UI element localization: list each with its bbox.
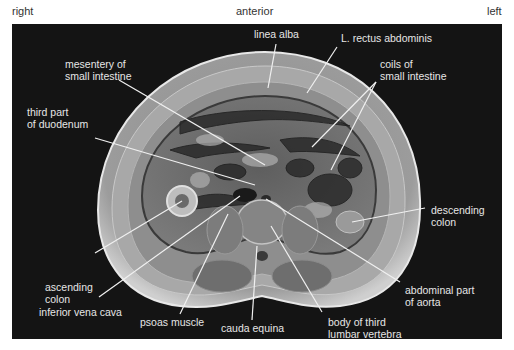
vertebra-shape [237, 200, 287, 244]
label-vertebra: body of third lumbar vertebra [328, 316, 402, 339]
label-duodenum: third part of duodenum [27, 106, 88, 130]
label-ascending-colon: ascending colon [45, 281, 93, 305]
orientation-anterior-label: anterior [236, 5, 273, 18]
orientation-right-label: right [12, 5, 33, 18]
label-cauda-equina: cauda equina [221, 322, 284, 334]
label-rectus-abdominis: L. rectus abdominis [341, 32, 432, 44]
label-descending-colon: descending colon [431, 204, 485, 228]
label-mesentery: mesentery of small intestine [65, 58, 132, 82]
label-aorta: abdominal part of aorta [405, 284, 474, 308]
label-ivc: inferior vena cava [39, 306, 122, 318]
ivc-shape [233, 188, 257, 202]
cross-section-image: linea alba L. rectus abdominis mesentery… [12, 24, 502, 339]
label-linea-alba: linea alba [254, 28, 299, 40]
orientation-left-label: left [487, 5, 502, 18]
label-coils: coils of small intestine [380, 58, 447, 82]
descending-colon-shape [336, 211, 364, 233]
label-psoas: psoas muscle [140, 316, 204, 328]
